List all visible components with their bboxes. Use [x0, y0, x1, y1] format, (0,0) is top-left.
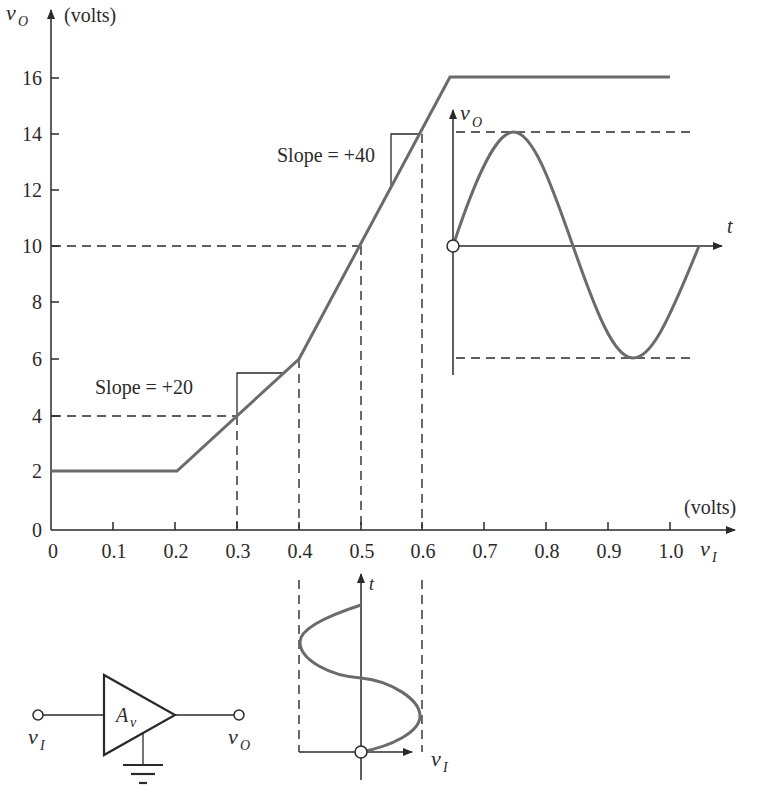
- y-ticks: [51, 78, 59, 471]
- amp-output-symbol: v: [228, 724, 238, 749]
- y-tick-labels: 0 2 4 6 8 10 12 14 16: [22, 67, 42, 541]
- input-origin-marker: [355, 746, 367, 758]
- x-axis: 0 0.1 0.2 0.3 0.4 0.5 0.6 0.7 0.8 0.9 1.…: [48, 496, 736, 565]
- input-axis-subscript: I: [442, 760, 449, 775]
- slope-low-label: Slope = +20: [95, 376, 193, 399]
- input-time-label: t: [369, 574, 375, 594]
- bias-point-marker: [447, 240, 459, 252]
- output-axis-symbol: v: [460, 100, 470, 125]
- amp-input-subscript: I: [39, 738, 46, 753]
- gain-symbol: A: [114, 704, 129, 726]
- x-tick-label: 0: [48, 540, 58, 562]
- x-tick-label: 0.8: [535, 540, 560, 562]
- y-tick-label: 14: [22, 123, 42, 145]
- x-tick-labels: 0 0.1 0.2 0.3 0.4 0.5 0.6 0.7 0.8 0.9 1.…: [48, 540, 684, 562]
- y-tick-label: 4: [32, 405, 42, 427]
- x-axis-subscript: I: [711, 550, 718, 565]
- input-axis-symbol: v: [431, 746, 441, 771]
- x-axis-symbol: v: [700, 536, 710, 561]
- slope-high-label: Slope = +40: [277, 144, 375, 167]
- x-tick-label: 0.1: [102, 540, 127, 562]
- amplifier-triangle-icon: [104, 675, 175, 755]
- y-axis-subscript: O: [18, 14, 28, 29]
- y-tick-label: 12: [22, 179, 42, 201]
- amplifier-schematic: A v v I v O: [28, 675, 250, 783]
- y-tick-label: 16: [22, 67, 42, 89]
- slope-triangle-low: Slope = +20: [95, 373, 283, 416]
- y-axis: v O (volts) 0 2 4 6 8 10 12 14 16: [6, 0, 116, 541]
- slope-triangle-high: Slope = +40: [277, 134, 420, 186]
- x-tick-label: 0.7: [473, 540, 498, 562]
- amp-input-symbol: v: [28, 724, 38, 749]
- y-tick-label: 6: [32, 348, 42, 370]
- x-tick-label: 0.4: [288, 540, 313, 562]
- x-tick-label: 0.3: [226, 540, 251, 562]
- amplifier-transfer-diagram: v O (volts) 0 2 4 6 8 10 12 14 16: [0, 0, 766, 810]
- x-tick-label: 0.5: [350, 540, 375, 562]
- x-tick-label: 1.0: [659, 540, 684, 562]
- output-waveform: v O t: [447, 100, 733, 375]
- guide-lines: [52, 132, 696, 752]
- output-axis-subscript: O: [472, 115, 482, 130]
- y-tick-label: 0: [32, 519, 42, 541]
- amp-output-subscript: O: [240, 738, 250, 753]
- x-axis-unit: (volts): [684, 496, 736, 519]
- x-tick-label: 0.2: [164, 540, 189, 562]
- y-axis-unit: (volts): [64, 4, 116, 27]
- output-time-label: t: [727, 215, 733, 237]
- output-sine-curve: [453, 132, 699, 358]
- input-terminal: [33, 710, 43, 720]
- x-tick-label: 0.6: [411, 540, 436, 562]
- input-waveform: t v I: [299, 574, 449, 780]
- x-ticks: [113, 522, 670, 530]
- ground-icon: [123, 765, 163, 783]
- output-terminal: [234, 710, 244, 720]
- y-tick-label: 10: [22, 235, 42, 257]
- input-sine-curve: [300, 605, 420, 752]
- x-tick-label: 0.9: [597, 540, 622, 562]
- y-axis-symbol: v: [6, 0, 16, 25]
- gain-subscript: v: [130, 715, 137, 730]
- y-tick-label: 8: [32, 291, 42, 313]
- y-tick-label: 2: [32, 460, 42, 482]
